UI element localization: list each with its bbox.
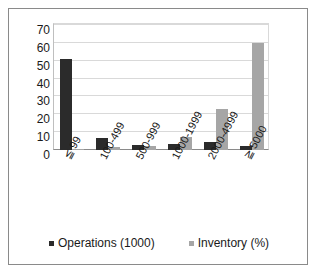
y-axis-tick-label: 30 xyxy=(23,95,50,107)
y-axis-tick-label: 60 xyxy=(23,42,50,54)
y-axis-tick-label: 10 xyxy=(23,131,50,143)
y-axis-tick-label: 70 xyxy=(23,24,50,36)
legend-label: Operations (1000) xyxy=(58,237,155,249)
bars-layer xyxy=(54,24,268,150)
legend-swatch-icon xyxy=(49,241,54,246)
y-axis: 706050403020100 xyxy=(23,17,50,157)
y-axis-tick-label: 20 xyxy=(23,113,50,125)
y-axis-tick-label: 40 xyxy=(23,78,50,90)
legend-item[interactable]: Operations (1000) xyxy=(49,237,155,249)
y-axis-tick-label: 50 xyxy=(23,60,50,72)
legend-label: Inventory (%) xyxy=(198,237,269,249)
chart-frame: 706050403020100 ≦ 99100-499500-9991000-1… xyxy=(8,8,308,265)
chart-legend: Operations (1000)Inventory (%) xyxy=(9,231,309,255)
legend-item[interactable]: Inventory (%) xyxy=(189,237,269,249)
legend-swatch-icon xyxy=(189,241,194,246)
bar-group xyxy=(54,24,90,150)
x-axis: ≦ 99100-499500-9991000-19992000-4999≧ 50… xyxy=(9,150,309,220)
